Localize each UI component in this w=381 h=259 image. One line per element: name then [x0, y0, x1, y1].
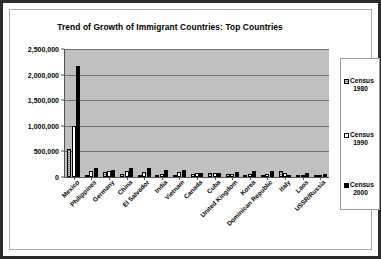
legend-swatch-icon	[344, 79, 349, 84]
legend-label-line2: 2000	[344, 189, 380, 197]
bar-group	[85, 49, 98, 177]
y-axis-tick-label: 2,500,000	[28, 46, 59, 53]
bar-group	[191, 49, 204, 177]
bar-group	[226, 49, 239, 177]
legend-label-line2: 1980	[344, 85, 380, 93]
plot-area	[64, 49, 329, 178]
bar-group	[138, 49, 151, 177]
bar-group	[67, 49, 80, 177]
bar-group	[279, 49, 292, 177]
legend-entry[interactable]: Census1990	[344, 131, 380, 147]
legend-entry[interactable]: Census1980	[344, 77, 380, 93]
bar-group	[155, 49, 168, 177]
y-axis-tick-label: 1,500,000	[28, 97, 59, 104]
y-axis-tick-label: 1,000,000	[28, 122, 59, 129]
legend-label-line1: Census	[350, 131, 374, 138]
bar	[76, 66, 80, 177]
chart-legend: Census1980Census1990Census2000	[340, 58, 380, 210]
bars-layer	[65, 49, 329, 177]
x-axis: MexicoPhilippinesGermanyChinaEl Salvador…	[64, 178, 328, 248]
x-axis-tick-label-text: Italy	[278, 179, 292, 193]
bar	[72, 126, 76, 177]
bar-group	[243, 49, 256, 177]
y-axis-tick-label: 0	[55, 174, 59, 181]
bar-group	[103, 49, 116, 177]
legend-label-line2: 1990	[344, 139, 380, 147]
bar-group	[208, 49, 221, 177]
page-title: Trend of Growth of Immigrant Countries: …	[10, 22, 330, 32]
y-axis-tick-label: 2,000,000	[28, 71, 59, 78]
figure-frame: Trend of Growth of Immigrant Countries: …	[0, 0, 381, 259]
legend-label-line1: Census	[350, 181, 374, 188]
legend-label-line1: Census	[350, 77, 374, 84]
legend-swatch-icon	[344, 133, 349, 138]
legend-entry[interactable]: Census2000	[344, 181, 380, 197]
chart-card: Trend of Growth of Immigrant Countries: …	[9, 9, 372, 250]
bar	[67, 149, 71, 177]
y-axis: 2,500,0002,000,0001,500,0001,000,000500,…	[16, 49, 61, 177]
legend-swatch-icon	[344, 183, 349, 188]
bar-group	[120, 49, 133, 177]
y-axis-tick-label: 500,000	[34, 148, 59, 155]
bar-group	[314, 49, 327, 177]
